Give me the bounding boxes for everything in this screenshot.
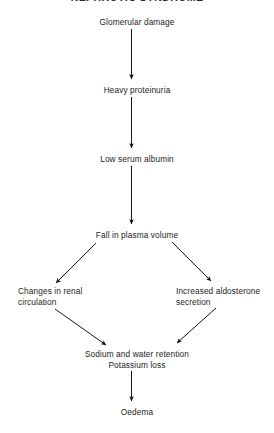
node-low-serum-albumin: Low serum albumin [0,154,274,165]
node-increased-aldosterone-secretion: Increased aldosterone secretion [176,286,274,307]
node-changes-in-renal-circulation: Changes in renal circulation [18,286,128,307]
node-glomerular-damage: Glomerular damage [0,17,274,28]
node-oedema: Oedema [0,407,274,418]
arrow-renal-circulation-to-sodium-retention [55,309,106,345]
arrow-plasma-volume-to-renal-circulation [56,243,96,283]
node-sodium-and-water-retention: Sodium and water retention Potassium los… [0,349,274,370]
arrow-plasma-volume-to-aldosterone [172,242,211,281]
node-fall-in-plasma-volume: Fall in plasma volume [0,230,274,241]
arrow-aldosterone-to-sodium-retention [177,308,216,343]
flowchart-diagram: NEPHROTIC SYNDROME Glomerular damage Hea… [0,0,274,433]
node-heavy-proteinuria: Heavy proteinuria [0,85,274,96]
